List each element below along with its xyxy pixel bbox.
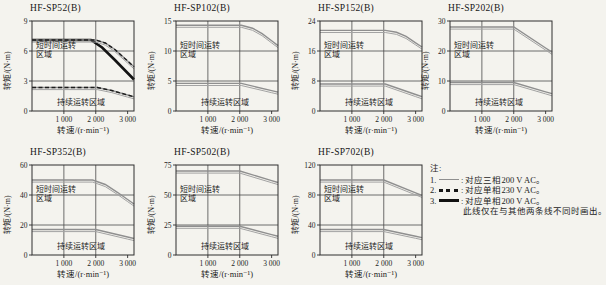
series-short-time-echo xyxy=(176,173,278,185)
y-tick-label: 50 xyxy=(164,191,172,200)
y-tick-label: 15 xyxy=(164,17,172,26)
y-tick-label: 0 xyxy=(24,107,28,116)
legend-item-single-phase-200vac: 3. : 对应单相200 V AC。 xyxy=(430,196,593,207)
y-tick-label: 60 xyxy=(20,161,28,170)
chart-hf-sp202-b-: HF-SP202(B)30201001 0002 0003 000转矩/(N·m… xyxy=(420,2,562,142)
x-tick-label: 2 000 xyxy=(87,259,104,268)
y-tick-label: 0 xyxy=(312,107,316,116)
legend-line-dashed-black-icon xyxy=(439,189,459,192)
region-label-short-time-2: 区域 xyxy=(454,49,470,59)
y-tick-label: 40 xyxy=(308,221,316,230)
x-axis-label: 转速/(r·min⁻¹) xyxy=(345,125,397,135)
legend-item-three-phase-200vac: 1. : 对应三相200 V AC。 xyxy=(430,175,593,186)
x-tick-label: 3 000 xyxy=(263,115,280,124)
y-axis-label: 转矩/(N·m) xyxy=(420,51,430,90)
chart-canvas: 96301 0002 0003 000转矩/(N·m)转速/(r·min⁻¹)短… xyxy=(2,15,144,141)
region-label-continuous: 持续运转区域 xyxy=(57,241,105,251)
y-tick-label: 8 xyxy=(312,77,316,86)
region-label-short-time: 短时间运转 xyxy=(180,184,220,194)
x-axis-label: 转速/(r·min⁻¹) xyxy=(57,125,109,135)
x-tick-label: 2 000 xyxy=(87,115,104,124)
y-tick-label: 6 xyxy=(24,47,28,56)
region-label-short-time: 短时间运转 xyxy=(324,184,364,194)
chart-title: HF-SP152(B) xyxy=(290,2,432,15)
y-axis-label: 转矩/(N·m) xyxy=(2,195,12,234)
chart-hf-sp52-b-: HF-SP52(B)96301 0002 0003 000转矩/(N·m)转速/… xyxy=(2,2,144,142)
y-tick-label: 10 xyxy=(164,47,172,56)
legend-line-thick-black-icon xyxy=(439,199,459,202)
x-tick-label: 1 000 xyxy=(343,259,360,268)
x-tick-label: 1 000 xyxy=(199,259,216,268)
chart-hf-sp152-b-: HF-SP152(B)2416801 0002 0003 000转矩/(N·m)… xyxy=(290,2,432,142)
x-tick-label: 1 000 xyxy=(473,115,490,124)
legend-footnote: 此线仅在与其他两条线不同时画出。 xyxy=(463,206,593,217)
x-tick-label: 2 000 xyxy=(375,259,392,268)
y-tick-label: 30 xyxy=(438,17,446,26)
legend-item-label: : 对应单相200 V AC。 xyxy=(461,196,545,207)
y-tick-label: 0 xyxy=(24,251,28,260)
x-tick-label: 2 000 xyxy=(231,259,248,268)
x-tick-label: 3 000 xyxy=(407,259,424,268)
notes-heading: 注: xyxy=(430,163,593,174)
legend-item-number: 2. xyxy=(430,185,439,196)
chart-canvas: 75502501 0002 0003 000转矩/(N·m)转速/(r·min⁻… xyxy=(146,159,288,285)
chart-canvas: 2416801 0002 0003 000转矩/(N·m)转速/(r·min⁻¹… xyxy=(290,15,432,141)
y-tick-label: 120 xyxy=(304,161,316,170)
region-label-continuous: 持续运转区域 xyxy=(201,241,249,251)
region-label-short-time: 短时间运转 xyxy=(180,40,220,50)
x-tick-label: 2 000 xyxy=(231,115,248,124)
series-continuous-echo xyxy=(32,232,134,241)
y-tick-label: 5 xyxy=(168,77,172,86)
region-label-short-time-2: 区域 xyxy=(324,193,340,203)
x-axis-label: 转速/(r·min⁻¹) xyxy=(475,125,527,135)
chart-title: HF-SP102(B) xyxy=(146,2,288,15)
chart-hf-sp502-b-: HF-SP502(B)75502501 0002 0003 000转矩/(N·m… xyxy=(146,146,288,285)
series-continuous-dashed xyxy=(32,88,134,97)
x-axis-label: 转速/(r·min⁻¹) xyxy=(201,269,253,279)
y-tick-label: 40 xyxy=(20,191,28,200)
legend-item-label: : 对应三相200 V AC。 xyxy=(461,175,545,186)
y-tick-label: 3 xyxy=(24,77,28,86)
x-tick-label: 1 000 xyxy=(55,115,72,124)
region-label-short-time-2: 区域 xyxy=(36,193,52,203)
chart-title: HF-SP202(B) xyxy=(420,2,562,15)
legend-item-single-phase-230vac: 2. : 对应单相230 V AC。 xyxy=(430,185,593,196)
x-tick-label: 2 000 xyxy=(375,115,392,124)
legend-item-number: 1. xyxy=(430,175,439,186)
x-tick-label: 1 000 xyxy=(199,115,216,124)
y-axis-label: 转矩/(N·m) xyxy=(290,195,300,234)
y-tick-label: 20 xyxy=(20,221,28,230)
region-label-short-time: 短时间运转 xyxy=(36,40,76,50)
y-tick-label: 0 xyxy=(168,107,172,116)
y-tick-label: 16 xyxy=(308,47,316,56)
y-axis-label: 转矩/(N·m) xyxy=(2,51,12,90)
region-label-continuous: 持续运转区域 xyxy=(345,97,393,107)
series-continuous-echo xyxy=(176,86,278,95)
region-label-short-time-2: 区域 xyxy=(180,49,196,59)
chart-canvas: 120804001 0002 0003 000转矩/(N·m)转速/(r·min… xyxy=(290,159,432,285)
x-tick-label: 3 000 xyxy=(119,115,136,124)
x-tick-label: 3 000 xyxy=(119,259,136,268)
y-tick-label: 24 xyxy=(308,17,316,26)
y-tick-label: 0 xyxy=(312,251,316,260)
y-tick-label: 25 xyxy=(164,221,172,230)
chart-canvas: 60402001 0002 0003 000转矩/(N·m)转速/(r·min⁻… xyxy=(2,159,144,285)
chart-title: HF-SP52(B) xyxy=(2,2,144,15)
series-continuous-echo xyxy=(450,85,552,96)
legend-item-number: 3. xyxy=(430,196,439,207)
chart-title: HF-SP702(B) xyxy=(290,146,432,159)
x-tick-label: 2 000 xyxy=(505,115,522,124)
chart-title: HF-SP352(B) xyxy=(2,146,144,159)
region-label-continuous: 持续运转区域 xyxy=(475,97,523,107)
x-axis-label: 转速/(r·min⁻¹) xyxy=(57,269,109,279)
y-tick-label: 0 xyxy=(168,251,172,260)
x-axis-label: 转速/(r·min⁻¹) xyxy=(345,269,397,279)
notes-legend: 注: 1. : 对应三相200 V AC。 2. : 对应单相230 V AC。… xyxy=(430,163,593,217)
y-tick-label: 75 xyxy=(164,161,172,170)
chart-hf-sp352-b-: HF-SP352(B)60402001 0002 0003 000转矩/(N·m… xyxy=(2,146,144,285)
y-axis-label: 转矩/(N·m) xyxy=(146,195,156,234)
chart-title: HF-SP502(B) xyxy=(146,146,288,159)
region-label-short-time: 短时间运转 xyxy=(324,40,364,50)
x-tick-label: 3 000 xyxy=(537,115,554,124)
legend-item-label: : 对应单相230 V AC。 xyxy=(461,185,545,196)
